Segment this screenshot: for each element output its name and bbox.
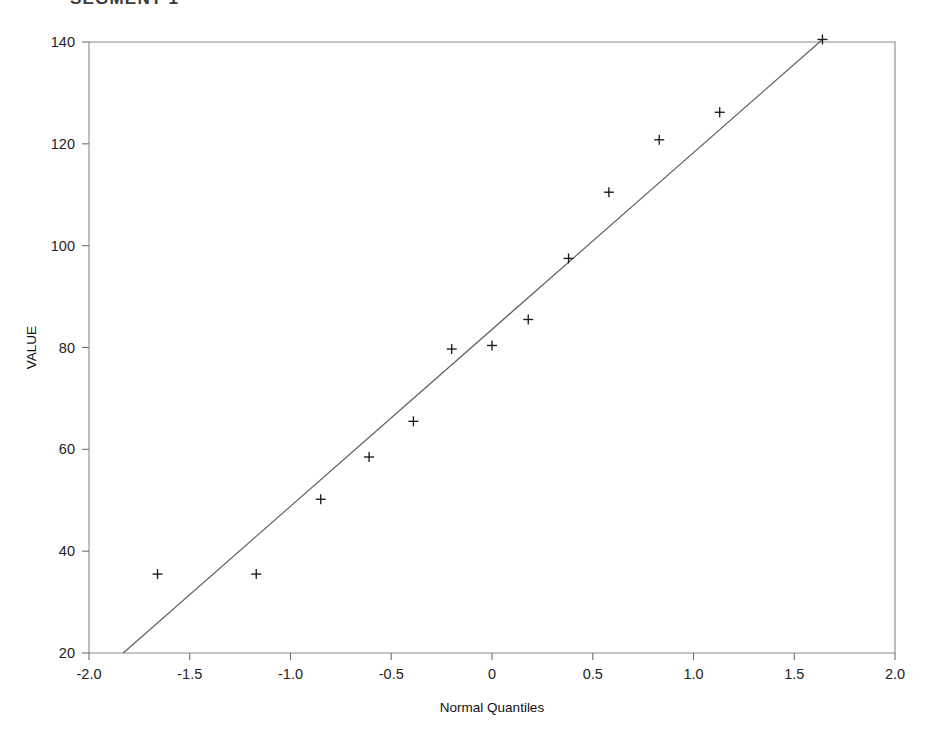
qq-plot-figure: SEGMENT 1 -2.0-1.5-1.0-0.500.51.01.52.02… — [0, 0, 933, 740]
x-axis-title: Normal Quantiles — [440, 700, 545, 715]
x-tick-label: -1.5 — [177, 666, 202, 682]
x-tick-label: 1.5 — [784, 666, 804, 682]
y-axis: 20406080100120140 — [51, 34, 89, 661]
data-point-marker — [523, 314, 533, 324]
y-tick-label: 120 — [51, 136, 75, 152]
data-point-marker — [251, 569, 261, 579]
x-tick-label: 2.0 — [885, 666, 905, 682]
data-point-marker — [153, 569, 163, 579]
data-point-marker — [487, 340, 497, 350]
x-tick-label: 0.5 — [583, 666, 603, 682]
data-point-marker — [715, 107, 725, 117]
reference-line — [123, 39, 822, 653]
y-tick-label: 60 — [59, 441, 75, 457]
y-tick-label: 100 — [51, 238, 75, 254]
normal-quantile-plot: -2.0-1.5-1.0-0.500.51.01.52.020406080100… — [0, 0, 933, 740]
x-tick-label: -0.5 — [379, 666, 404, 682]
data-point-marker — [364, 452, 374, 462]
y-tick-label: 80 — [59, 340, 75, 356]
y-tick-label: 140 — [51, 34, 75, 50]
y-tick-label: 40 — [59, 543, 75, 559]
x-tick-label: -1.0 — [278, 666, 303, 682]
x-tick-label: -2.0 — [77, 666, 102, 682]
y-tick-label: 20 — [59, 645, 75, 661]
data-point-marker — [564, 253, 574, 263]
data-point-marker — [408, 416, 418, 426]
data-point-marker — [654, 135, 664, 145]
data-point-marker — [316, 494, 326, 504]
data-point-marker — [604, 187, 614, 197]
data-point-marker — [447, 344, 457, 354]
x-tick-label: 1.0 — [683, 666, 703, 682]
x-tick-label: 0 — [488, 666, 496, 682]
x-axis: -2.0-1.5-1.0-0.500.51.01.52.0 — [77, 653, 906, 682]
y-axis-title: VALUE — [24, 326, 39, 369]
data-series — [153, 34, 828, 579]
